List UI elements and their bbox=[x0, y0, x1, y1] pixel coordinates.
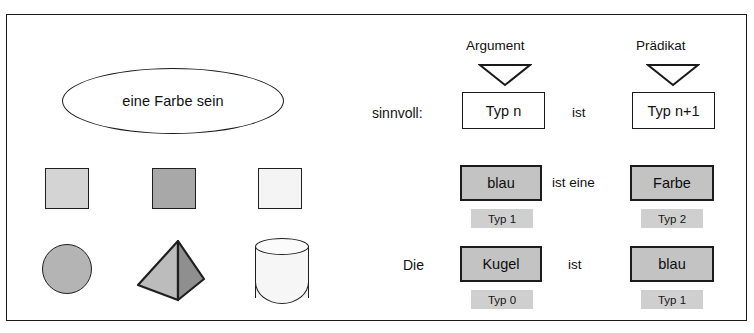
square-white-swatch bbox=[258, 168, 302, 209]
schema-row-label: sinnvoll: bbox=[372, 106, 423, 120]
argument-type-box: Typ n bbox=[462, 92, 545, 129]
schema-connector: ist bbox=[572, 106, 586, 120]
row1-subject-box: blau bbox=[460, 165, 542, 201]
cylinder-top bbox=[255, 238, 309, 255]
row2-row-label: Die bbox=[403, 258, 424, 272]
row1-connector: ist eine bbox=[552, 176, 595, 190]
predicate-ellipse-label: eine Farbe sein bbox=[62, 68, 284, 134]
row1-subject-type-band: Typ 1 bbox=[471, 209, 533, 228]
pyramid-svg bbox=[132, 238, 210, 304]
row2-object-box: blau bbox=[630, 246, 714, 282]
predicate-type-box: Typ n+1 bbox=[632, 92, 715, 129]
row1-object-box: Farbe bbox=[630, 165, 714, 201]
row2-subject-box: Kugel bbox=[460, 246, 542, 282]
pyramid-shape bbox=[132, 238, 210, 304]
row2-subject-type-band: Typ 0 bbox=[471, 290, 533, 309]
sphere-shape bbox=[42, 244, 92, 294]
cylinder-shape bbox=[255, 238, 309, 306]
square-light-swatch bbox=[45, 168, 89, 209]
predikat-triangle-icon bbox=[646, 63, 700, 87]
argument-triangle-icon bbox=[478, 63, 532, 87]
predicate-caption: Prädikat bbox=[636, 39, 686, 53]
row2-object-type-band: Typ 1 bbox=[641, 290, 703, 309]
argument-caption: Argument bbox=[466, 39, 525, 53]
cylinder-bottom bbox=[255, 282, 309, 304]
row1-object-type-band: Typ 2 bbox=[641, 209, 703, 228]
diagram-canvas: eine Farbe sein Argument Prädikat sinnvo… bbox=[0, 0, 754, 333]
row2-connector: ist bbox=[568, 258, 582, 272]
square-medium-swatch bbox=[152, 168, 196, 209]
